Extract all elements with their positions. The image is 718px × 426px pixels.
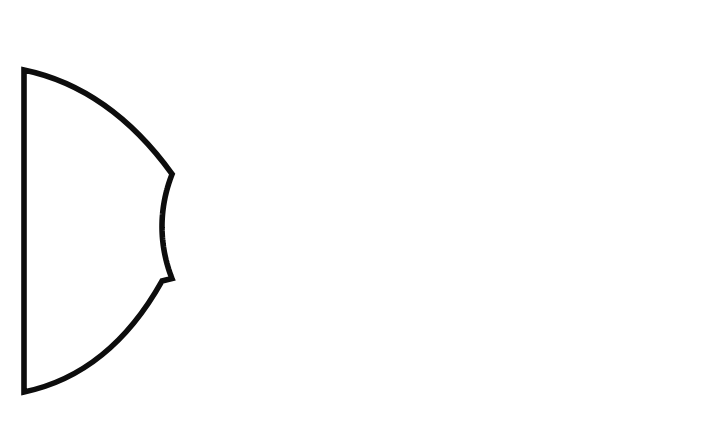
- artboard-background: [0, 0, 718, 426]
- caption-text: Use with "School Of Fish" on page 75.: [5, 3, 234, 19]
- template-page: Use with "School Of Fish" on page 75.: [0, 0, 718, 426]
- fish-outline-path: [24, 70, 172, 392]
- fish-outline-svg: [0, 0, 718, 426]
- fish-outline-artwork: [0, 0, 718, 426]
